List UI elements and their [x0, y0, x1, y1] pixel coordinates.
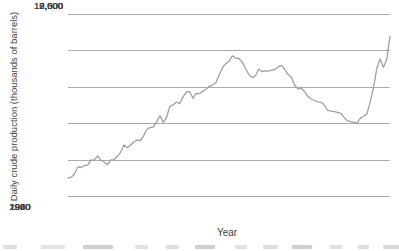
- text-smudge: [135, 245, 148, 249]
- cropped-caption-artifact: [0, 245, 399, 251]
- text-smudge: [383, 245, 399, 249]
- plot-svg: [0, 0, 399, 251]
- text-smudge: [263, 245, 277, 249]
- crude-production-line-chart: 12,500 10,000 7,500 5,000 2,500 0 1920 1…: [0, 0, 399, 251]
- text-smudge: [195, 245, 215, 249]
- text-smudge: [358, 245, 369, 249]
- text-smudge: [83, 245, 114, 249]
- production-line-path: [68, 36, 390, 178]
- text-smudge: [41, 245, 64, 249]
- text-smudge: [330, 245, 343, 249]
- text-smudge: [235, 245, 248, 249]
- text-smudge: [292, 245, 312, 249]
- text-smudge: [166, 245, 179, 249]
- text-smudge: [3, 245, 17, 249]
